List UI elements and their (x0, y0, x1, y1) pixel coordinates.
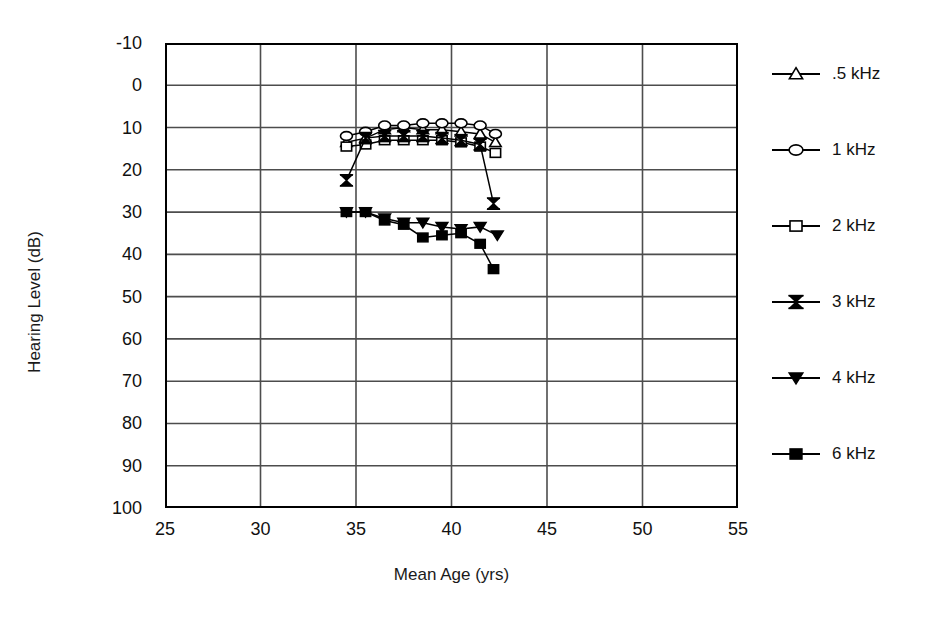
data-marker-open-circle (455, 119, 467, 128)
legend-label: 2 kHz (822, 216, 875, 236)
data-marker-filled-square (341, 208, 351, 217)
data-marker-open-circle (489, 129, 501, 138)
x-tick-label: 45 (517, 520, 577, 538)
data-marker-filled-square (399, 220, 409, 229)
gridlines (165, 43, 738, 508)
data-marker-filled-bowtie (340, 175, 353, 186)
y-tick-label: 70 (82, 372, 142, 390)
data-marker-open-circle (417, 119, 429, 128)
data-marker-filled-square (437, 231, 447, 240)
data-marker-open-circle (789, 145, 803, 155)
data-marker-filled-down-triangle (491, 231, 503, 241)
legend-item[interactable]: 4 kHz (770, 340, 946, 416)
x-tick-label: 50 (613, 520, 673, 538)
y-tick-label: 60 (82, 330, 142, 348)
plot-svg (165, 43, 738, 508)
x-tick-label: 35 (326, 520, 386, 538)
x-axis-label: Mean Age (yrs) (165, 565, 738, 585)
legend-label: 6 kHz (822, 444, 875, 464)
chart-figure: Hearing Level (dB) Mean Age (yrs) -10010… (0, 0, 946, 640)
y-tick-label: 50 (82, 288, 142, 306)
legend-marker-open-circle-icon (770, 137, 822, 163)
x-tick-label: 25 (135, 520, 195, 538)
legend-marker-filled-square-icon (770, 441, 822, 467)
data-marker-open-circle (398, 121, 410, 130)
data-marker-open-square (790, 221, 802, 231)
data-marker-open-square (341, 142, 351, 151)
x-tick-label: 40 (422, 520, 482, 538)
legend-marker-open-square-icon (770, 213, 822, 239)
legend-label: 3 kHz (822, 292, 875, 312)
legend-item[interactable]: 3 kHz (770, 264, 946, 340)
y-tick-label: 10 (82, 119, 142, 137)
legend-label: .5 kHz (822, 64, 880, 84)
data-marker-filled-square (475, 239, 485, 248)
data-marker-filled-square (379, 216, 389, 225)
y-axis-label: Hearing Level (dB) (22, 188, 48, 418)
data-marker-filled-square (790, 449, 802, 459)
data-marker-filled-bowtie (487, 198, 500, 209)
y-tick-label: 100 (82, 499, 142, 517)
legend-label: 4 kHz (822, 368, 875, 388)
data-marker-open-circle (436, 119, 448, 128)
legend-marker-filled-bowtie-icon (770, 289, 822, 315)
y-tick-label: 30 (82, 203, 142, 221)
data-marker-open-circle (379, 121, 391, 130)
legend-item[interactable]: .5 kHz (770, 36, 946, 112)
y-tick-label: 0 (82, 76, 142, 94)
y-tick-label: 80 (82, 414, 142, 432)
x-tick-label: 30 (231, 520, 291, 538)
legend-label: 1 kHz (822, 140, 875, 160)
legend-item[interactable]: 6 kHz (770, 416, 946, 492)
chart-legend: .5 kHz1 kHz2 kHz3 kHz4 kHz6 kHz (770, 36, 946, 492)
data-marker-filled-square (360, 208, 370, 217)
data-marker-open-circle (474, 121, 486, 130)
x-tick-label: 55 (708, 520, 768, 538)
y-axis-label-text: Hearing Level (dB) (25, 202, 45, 402)
x-axis-ticks: 25303540455055 (0, 520, 946, 550)
data-marker-filled-square (418, 233, 428, 242)
legend-marker-filled-down-triangle-icon (770, 365, 822, 391)
data-marker-open-circle (340, 132, 352, 141)
y-tick-label: 40 (82, 245, 142, 263)
data-marker-filled-square (488, 265, 498, 274)
legend-item[interactable]: 2 kHz (770, 188, 946, 264)
y-tick-label: -10 (82, 34, 142, 52)
plot-area (165, 43, 738, 508)
legend-marker-open-triangle-icon (770, 61, 822, 87)
y-tick-label: 20 (82, 161, 142, 179)
data-marker-open-square (490, 148, 500, 157)
data-marker-filled-square (456, 229, 466, 238)
y-tick-label: 90 (82, 457, 142, 475)
legend-item[interactable]: 1 kHz (770, 112, 946, 188)
